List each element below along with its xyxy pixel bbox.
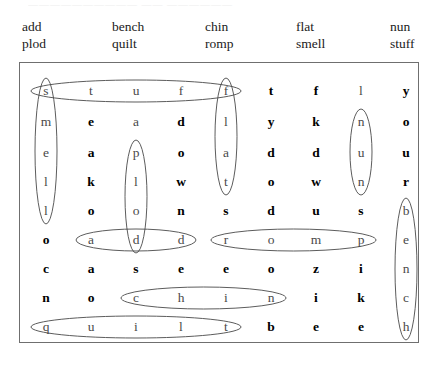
grid-letter[interactable]: o <box>256 258 286 280</box>
grid-letter[interactable]: m <box>31 111 61 133</box>
grid-letter[interactable]: a <box>121 111 151 133</box>
grid-letter[interactable]: d <box>166 111 196 133</box>
grid-letter[interactable]: c <box>391 287 421 309</box>
word-bank-entry: flat <box>296 18 325 35</box>
grid-letter[interactable]: u <box>121 80 151 102</box>
word-bank-entry: smell <box>296 35 325 52</box>
grid-letter[interactable]: a <box>211 142 241 164</box>
grid-letter[interactable]: o <box>76 200 106 222</box>
grid-letter[interactable]: n <box>166 200 196 222</box>
grid-letter[interactable]: o <box>166 142 196 164</box>
grid-letter[interactable]: o <box>256 229 286 251</box>
grid-letter[interactable]: k <box>76 171 106 193</box>
grid-letter[interactable]: c <box>31 258 61 280</box>
grid-letter[interactable]: f <box>211 80 241 102</box>
grid-letter[interactable]: a <box>76 258 106 280</box>
grid-letter[interactable]: l <box>346 80 376 102</box>
word-search-grid-box: stufftflymeadlyknoeapoadduulklwtownrloon… <box>19 62 419 343</box>
grid-letter[interactable]: u <box>301 200 331 222</box>
grid-letter[interactable]: d <box>121 229 151 251</box>
grid-letter[interactable]: w <box>301 171 331 193</box>
grid-letter[interactable]: q <box>31 316 61 338</box>
grid-letter[interactable]: t <box>211 171 241 193</box>
grid-letter[interactable]: o <box>76 287 106 309</box>
grid-letter[interactable]: t <box>76 80 106 102</box>
grid-letter[interactable]: i <box>346 258 376 280</box>
word-bank-column: addplod <box>22 18 46 52</box>
grid-letter[interactable]: f <box>301 80 331 102</box>
grid-letter[interactable]: r <box>391 171 421 193</box>
grid-letter[interactable]: n <box>391 258 421 280</box>
grid-letter[interactable]: i <box>121 316 151 338</box>
grid-letter[interactable]: e <box>301 316 331 338</box>
grid-letter[interactable]: o <box>121 200 151 222</box>
worksheet-page: —————————— —— —————— addplodbenchquiltch… <box>0 0 437 368</box>
grid-letter[interactable]: d <box>256 200 286 222</box>
grid-letter[interactable]: u <box>391 142 421 164</box>
grid-letter[interactable]: d <box>256 142 286 164</box>
grid-letter[interactable]: l <box>211 111 241 133</box>
word-bank-entry: nun <box>390 18 415 35</box>
grid-letter[interactable]: o <box>256 171 286 193</box>
grid-letter[interactable]: w <box>166 171 196 193</box>
grid-letter[interactable]: a <box>76 142 106 164</box>
word-bank-column: nunstuff <box>390 18 415 52</box>
grid-letter[interactable]: t <box>256 80 286 102</box>
grid-letter[interactable]: d <box>166 229 196 251</box>
grid-letter[interactable]: p <box>346 229 376 251</box>
grid-letter[interactable]: s <box>31 80 61 102</box>
grid-letter[interactable]: h <box>166 287 196 309</box>
grid-letter[interactable]: b <box>391 200 421 222</box>
grid-letter[interactable]: i <box>301 287 331 309</box>
grid-letter[interactable]: s <box>346 200 376 222</box>
grid-letter[interactable]: h <box>391 316 421 338</box>
grid-letter[interactable]: l <box>166 316 196 338</box>
grid-letter[interactable]: e <box>166 258 196 280</box>
grid-letter[interactable]: l <box>31 200 61 222</box>
cropped-header-text: —————————— —— —————— <box>28 0 388 8</box>
grid-letter[interactable]: s <box>211 200 241 222</box>
word-bank: addplodbenchquiltchinrompflatsmellnunstu… <box>0 18 437 58</box>
grid-letter[interactable]: b <box>256 316 286 338</box>
word-bank-column: chinromp <box>205 18 234 52</box>
word-bank-entry: romp <box>205 35 234 52</box>
grid-letter[interactable]: t <box>211 316 241 338</box>
grid-letter[interactable]: z <box>301 258 331 280</box>
word-bank-entry: stuff <box>390 35 415 52</box>
grid-letter[interactable]: p <box>121 142 151 164</box>
word-bank-entry: bench <box>112 18 144 35</box>
grid-letter[interactable]: s <box>121 258 151 280</box>
grid-letter[interactable]: e <box>346 316 376 338</box>
grid-letter[interactable]: a <box>76 229 106 251</box>
grid-letter[interactable]: m <box>301 229 331 251</box>
grid-letter[interactable]: n <box>31 287 61 309</box>
grid-letter[interactable]: e <box>31 142 61 164</box>
word-bank-entry: chin <box>205 18 234 35</box>
grid-letter[interactable]: o <box>31 229 61 251</box>
grid-letter[interactable]: o <box>391 111 421 133</box>
word-bank-entry: add <box>22 18 46 35</box>
letter-grid: stufftflymeadlyknoeapoadduulklwtownrloon… <box>20 63 420 344</box>
grid-letter[interactable]: k <box>301 111 331 133</box>
word-bank-entry: plod <box>22 35 46 52</box>
grid-letter[interactable]: u <box>346 142 376 164</box>
grid-letter[interactable]: n <box>346 111 376 133</box>
grid-letter[interactable]: n <box>346 171 376 193</box>
grid-letter[interactable]: c <box>121 287 151 309</box>
grid-letter[interactable]: e <box>211 258 241 280</box>
word-bank-column: benchquilt <box>112 18 144 52</box>
grid-letter[interactable]: l <box>121 171 151 193</box>
word-bank-column: flatsmell <box>296 18 325 52</box>
grid-letter[interactable]: f <box>166 80 196 102</box>
grid-letter[interactable]: u <box>76 316 106 338</box>
grid-letter[interactable]: r <box>211 229 241 251</box>
grid-letter[interactable]: y <box>391 80 421 102</box>
grid-letter[interactable]: n <box>256 287 286 309</box>
grid-letter[interactable]: l <box>31 171 61 193</box>
grid-letter[interactable]: e <box>76 111 106 133</box>
grid-letter[interactable]: i <box>211 287 241 309</box>
grid-letter[interactable]: d <box>301 142 331 164</box>
grid-letter[interactable]: y <box>256 111 286 133</box>
grid-letter[interactable]: k <box>346 287 376 309</box>
grid-letter[interactable]: e <box>391 229 421 251</box>
